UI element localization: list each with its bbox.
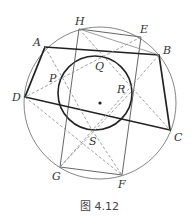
- label-a: A: [32, 36, 41, 49]
- label-b: B: [162, 44, 171, 57]
- label-f: F: [117, 178, 126, 191]
- label-g: G: [52, 170, 61, 183]
- label-h: H: [74, 15, 85, 28]
- label-c: C: [174, 131, 183, 144]
- label-p: P: [48, 72, 57, 85]
- label-r: R: [116, 83, 125, 96]
- label-s: S: [89, 135, 97, 148]
- label-d: D: [11, 91, 21, 104]
- label-q: Q: [95, 60, 104, 73]
- figure-caption: 图 4.12: [80, 200, 119, 213]
- center-dot: [98, 101, 101, 104]
- geometry-figure: A B C D E F G H P Q R S 图 4.12: [0, 0, 194, 218]
- label-e: E: [139, 23, 148, 36]
